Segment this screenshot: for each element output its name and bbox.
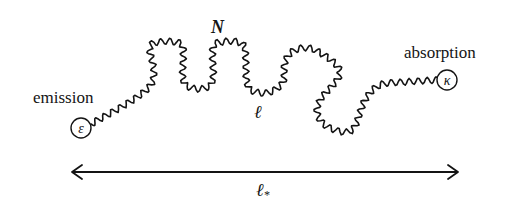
total-length-label: ℓ* — [256, 180, 270, 202]
step-length-label: ℓ — [254, 102, 262, 122]
emission-symbol: ε — [78, 121, 84, 136]
photon-walk-path — [91, 38, 437, 135]
distance-arrow — [72, 165, 458, 179]
absorption-symbol: κ — [444, 73, 451, 88]
random-walk-diagram: ε κ emission absorption N ℓ ℓ* — [0, 0, 523, 212]
total-length-subscript: * — [264, 188, 270, 202]
absorption-point: κ — [437, 70, 457, 90]
emission-label: emission — [33, 88, 94, 107]
n-steps-label: N — [210, 17, 225, 37]
absorption-label: absorption — [404, 43, 476, 62]
emission-point: ε — [71, 118, 91, 138]
